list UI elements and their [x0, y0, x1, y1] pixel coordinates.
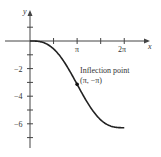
- chart: x y π 2π −2 −4 −6 Inflection point (π, −…: [0, 0, 161, 157]
- xtick-label-2pi: 2π: [118, 45, 126, 54]
- y-axis-arrow-icon: [28, 10, 33, 16]
- ytick-label-m6: −6: [14, 120, 23, 129]
- x-axis-label: x: [147, 42, 152, 51]
- xtick-label-pi: π: [75, 45, 79, 54]
- annotation-coords: (π, −π): [80, 76, 102, 85]
- ytick-label-m2: −2: [14, 65, 23, 74]
- y-axis-label: y: [22, 7, 27, 16]
- inflection-point-marker: [75, 83, 79, 87]
- y-axis: [28, 10, 33, 148]
- annotation-title: Inflection point: [80, 66, 130, 75]
- ytick-label-m4: −4: [14, 92, 23, 101]
